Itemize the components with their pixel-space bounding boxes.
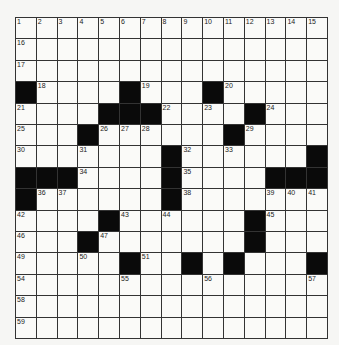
grid-cell[interactable]: 7 bbox=[141, 18, 161, 38]
grid-cell[interactable]: 27 bbox=[120, 125, 140, 145]
grid-cell[interactable] bbox=[182, 275, 202, 295]
grid-cell[interactable] bbox=[58, 232, 78, 252]
grid-cell[interactable] bbox=[37, 232, 57, 252]
grid-cell[interactable] bbox=[120, 168, 140, 188]
grid-cell[interactable] bbox=[58, 146, 78, 166]
grid-cell[interactable]: 32 bbox=[182, 146, 202, 166]
grid-cell[interactable] bbox=[58, 104, 78, 124]
grid-cell[interactable] bbox=[203, 168, 223, 188]
grid-cell[interactable]: 17 bbox=[16, 61, 36, 81]
grid-cell[interactable]: 4 bbox=[78, 18, 98, 38]
grid-cell[interactable] bbox=[286, 275, 306, 295]
grid-cell[interactable] bbox=[37, 61, 57, 81]
grid-cell[interactable] bbox=[78, 82, 98, 102]
grid-cell[interactable] bbox=[141, 168, 161, 188]
grid-cell[interactable] bbox=[120, 296, 140, 316]
grid-cell[interactable] bbox=[37, 104, 57, 124]
grid-cell[interactable]: 13 bbox=[266, 18, 286, 38]
grid-cell[interactable] bbox=[307, 232, 327, 252]
grid-cell[interactable] bbox=[99, 189, 119, 209]
grid-cell[interactable] bbox=[182, 82, 202, 102]
grid-cell[interactable] bbox=[78, 296, 98, 316]
grid-cell[interactable] bbox=[224, 61, 244, 81]
grid-cell[interactable] bbox=[141, 146, 161, 166]
grid-cell[interactable] bbox=[58, 82, 78, 102]
grid-cell[interactable]: 10 bbox=[203, 18, 223, 38]
grid-cell[interactable] bbox=[58, 296, 78, 316]
grid-cell[interactable] bbox=[58, 211, 78, 231]
grid-cell[interactable] bbox=[203, 232, 223, 252]
grid-cell[interactable] bbox=[58, 125, 78, 145]
grid-cell[interactable] bbox=[58, 61, 78, 81]
grid-cell[interactable] bbox=[58, 39, 78, 59]
grid-cell[interactable] bbox=[203, 146, 223, 166]
grid-cell[interactable] bbox=[245, 168, 265, 188]
grid-cell[interactable] bbox=[286, 211, 306, 231]
grid-cell[interactable] bbox=[307, 318, 327, 338]
grid-cell[interactable] bbox=[141, 318, 161, 338]
grid-cell[interactable] bbox=[203, 318, 223, 338]
grid-cell[interactable] bbox=[182, 104, 202, 124]
grid-cell[interactable] bbox=[99, 82, 119, 102]
grid-cell[interactable] bbox=[266, 232, 286, 252]
grid-cell[interactable] bbox=[224, 211, 244, 231]
grid-cell[interactable]: 5 bbox=[99, 18, 119, 38]
grid-cell[interactable] bbox=[162, 82, 182, 102]
grid-cell[interactable] bbox=[37, 296, 57, 316]
grid-cell[interactable]: 37 bbox=[58, 189, 78, 209]
grid-cell[interactable] bbox=[162, 61, 182, 81]
grid-cell[interactable] bbox=[224, 104, 244, 124]
grid-cell[interactable] bbox=[182, 61, 202, 81]
grid-cell[interactable] bbox=[162, 318, 182, 338]
grid-cell[interactable] bbox=[37, 211, 57, 231]
grid-cell[interactable] bbox=[286, 146, 306, 166]
grid-cell[interactable] bbox=[162, 125, 182, 145]
grid-cell[interactable] bbox=[78, 211, 98, 231]
grid-cell[interactable]: 35 bbox=[182, 168, 202, 188]
grid-cell[interactable] bbox=[286, 125, 306, 145]
grid-cell[interactable]: 25 bbox=[16, 125, 36, 145]
grid-cell[interactable] bbox=[203, 39, 223, 59]
grid-cell[interactable] bbox=[266, 296, 286, 316]
grid-cell[interactable] bbox=[307, 39, 327, 59]
grid-cell[interactable]: 40 bbox=[286, 189, 306, 209]
grid-cell[interactable] bbox=[245, 318, 265, 338]
grid-cell[interactable] bbox=[37, 125, 57, 145]
grid-cell[interactable]: 16 bbox=[16, 39, 36, 59]
grid-cell[interactable] bbox=[78, 189, 98, 209]
grid-cell[interactable]: 58 bbox=[16, 296, 36, 316]
grid-cell[interactable]: 14 bbox=[286, 18, 306, 38]
grid-cell[interactable] bbox=[99, 168, 119, 188]
grid-cell[interactable] bbox=[203, 125, 223, 145]
grid-cell[interactable] bbox=[224, 232, 244, 252]
grid-cell[interactable] bbox=[99, 296, 119, 316]
grid-cell[interactable] bbox=[162, 232, 182, 252]
grid-cell[interactable] bbox=[224, 275, 244, 295]
grid-cell[interactable] bbox=[266, 82, 286, 102]
grid-cell[interactable] bbox=[245, 296, 265, 316]
grid-cell[interactable]: 28 bbox=[141, 125, 161, 145]
grid-cell[interactable]: 46 bbox=[16, 232, 36, 252]
grid-cell[interactable] bbox=[224, 39, 244, 59]
grid-cell[interactable]: 39 bbox=[266, 189, 286, 209]
grid-cell[interactable]: 36 bbox=[37, 189, 57, 209]
grid-cell[interactable]: 56 bbox=[203, 275, 223, 295]
grid-cell[interactable] bbox=[286, 232, 306, 252]
grid-cell[interactable] bbox=[245, 61, 265, 81]
grid-cell[interactable]: 31 bbox=[78, 146, 98, 166]
grid-cell[interactable] bbox=[245, 253, 265, 273]
grid-cell[interactable]: 19 bbox=[141, 82, 161, 102]
grid-cell[interactable] bbox=[307, 82, 327, 102]
grid-cell[interactable] bbox=[78, 275, 98, 295]
grid-cell[interactable] bbox=[245, 82, 265, 102]
grid-cell[interactable]: 30 bbox=[16, 146, 36, 166]
grid-cell[interactable] bbox=[307, 125, 327, 145]
grid-cell[interactable] bbox=[266, 275, 286, 295]
grid-cell[interactable] bbox=[37, 275, 57, 295]
grid-cell[interactable] bbox=[141, 211, 161, 231]
grid-cell[interactable]: 9 bbox=[182, 18, 202, 38]
grid-cell[interactable] bbox=[182, 39, 202, 59]
grid-cell[interactable] bbox=[99, 275, 119, 295]
grid-cell[interactable] bbox=[182, 125, 202, 145]
grid-cell[interactable] bbox=[224, 296, 244, 316]
